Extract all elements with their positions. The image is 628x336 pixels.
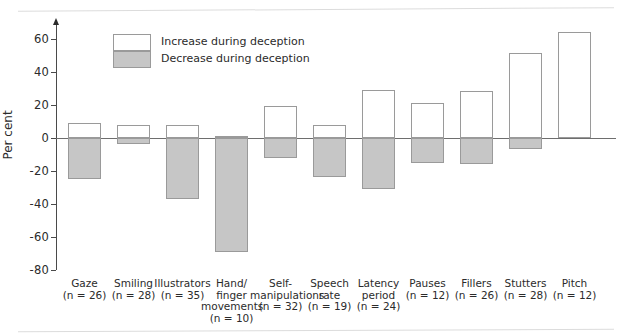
y-tick-mark [51,270,56,271]
chart-legend: Increase during deception Decrease durin… [113,33,343,73]
y-axis-title: Per cent [1,110,15,159]
y-tick-label: 20 [34,98,49,112]
legend-label-decrease: Decrease during deception [161,50,310,67]
y-tick-mark [51,171,56,172]
y-tick-label: -40 [30,197,49,211]
bar-decrease [509,138,542,150]
bar-decrease [313,138,346,178]
category-name-line: Pitch [544,278,605,290]
y-tick-mark [51,72,56,73]
legend-label-increase: Increase during deception [161,33,310,50]
y-tick-label: 0 [41,131,49,145]
category-sample-size: (n = 10) [201,313,262,325]
bar-decrease [117,138,150,145]
y-tick-label: -20 [30,164,49,178]
y-tick-label: 60 [34,32,49,46]
bar-increase [68,123,101,138]
y-axis-arrow-icon [53,18,59,25]
bar-group [558,22,591,270]
y-tick-mark [51,39,56,40]
y-tick-mark [51,204,56,205]
legend-swatch-increase [113,34,151,51]
bar-group [68,22,101,270]
bar-increase [460,91,493,137]
bar-group [362,22,395,270]
legend-swatch-decrease [113,51,151,68]
bar-increase [117,125,150,138]
y-axis-line [56,24,57,270]
bar-decrease [68,138,101,179]
bar-decrease [215,138,248,252]
x-axis-category-labels: Gaze(n = 26)Smiling(n = 28)Illustrators(… [56,278,622,334]
bar-chart-figure: Per cent 6040200-20-40-60-80 Gaze(n = 26… [0,0,628,336]
bar-increase [362,90,395,138]
category-sample-size: (n = 12) [544,290,605,302]
bar-group [460,22,493,270]
bar-increase [509,53,542,137]
x-category-label: Pitch(n = 12) [544,278,605,301]
y-tick-label: 40 [34,65,49,79]
bar-increase [411,103,444,138]
bar-group [509,22,542,270]
y-tick-label: -60 [30,230,49,244]
category-sample-size: (n = 24) [348,301,409,313]
bar-decrease [166,138,199,199]
legend-label-group: Increase during deception Decrease durin… [161,33,310,67]
bar-increase [558,32,591,138]
bar-decrease [264,138,297,158]
y-tick-mark [51,105,56,106]
bar-group [411,22,444,270]
bar-increase [166,125,199,138]
bar-increase [313,125,346,138]
legend-swatch-group [113,34,151,68]
y-tick-label: -80 [30,263,49,277]
bar-decrease [362,138,395,189]
y-tick-mark [51,237,56,238]
bar-increase [264,106,297,137]
bar-decrease [460,138,493,164]
bar-decrease [411,138,444,163]
page-rule-top [18,7,614,12]
